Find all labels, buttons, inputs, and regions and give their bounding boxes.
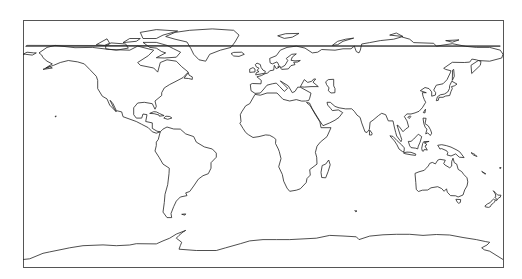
coastline-fiji xyxy=(499,167,501,168)
map-canvas xyxy=(0,0,522,279)
world-map xyxy=(0,0,522,279)
map-frame xyxy=(24,21,504,268)
coastline-kerguelen xyxy=(355,211,357,212)
